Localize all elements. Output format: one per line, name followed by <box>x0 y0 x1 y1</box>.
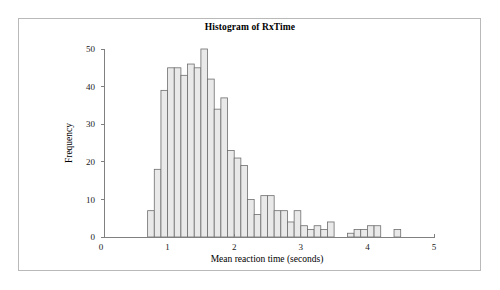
histogram-bar <box>208 79 215 237</box>
histogram-bar <box>301 226 308 237</box>
x-tick-label: 5 <box>432 242 437 252</box>
histogram-bar <box>168 68 175 237</box>
histogram-bar <box>234 158 241 237</box>
y-tick-label: 0 <box>91 232 96 242</box>
histogram-bar <box>281 211 288 237</box>
histogram-bar <box>154 169 161 237</box>
histogram-bar <box>394 229 401 237</box>
histogram-bar <box>194 68 201 237</box>
y-axis-ticks: 01020304050 <box>86 44 105 242</box>
y-tick-label: 40 <box>86 82 96 92</box>
x-tick-label: 1 <box>165 242 170 252</box>
histogram-bar <box>228 151 235 237</box>
histogram-bar <box>261 196 268 237</box>
histogram-bar <box>201 49 208 237</box>
histogram-bar <box>268 196 275 237</box>
histogram-bar <box>354 229 361 237</box>
histogram-bar <box>274 211 281 237</box>
histogram-bar <box>367 226 374 237</box>
y-tick-label: 50 <box>86 44 96 54</box>
plot-area: 01020304050 012345 Mean reaction time (s… <box>0 0 500 290</box>
histogram-bar <box>241 166 248 237</box>
histogram-bar <box>314 226 321 237</box>
histogram-bar <box>321 229 328 237</box>
histogram-bar <box>148 211 155 237</box>
histogram-bar <box>374 226 381 237</box>
x-tick-label: 0 <box>99 242 104 252</box>
y-axis-title: Frequency <box>64 123 74 163</box>
y-tick-label: 10 <box>86 195 96 205</box>
histogram-bar <box>221 98 228 237</box>
histogram-bar <box>214 109 221 237</box>
histogram-bar <box>174 68 181 237</box>
histogram-bar <box>188 64 195 237</box>
histogram-bars <box>148 49 401 237</box>
x-tick-label: 4 <box>365 242 370 252</box>
histogram-bar <box>254 214 261 237</box>
histogram-bar <box>361 229 368 237</box>
histogram-bar <box>181 75 188 237</box>
y-tick-label: 30 <box>86 119 96 129</box>
x-tick-label: 2 <box>232 242 237 252</box>
x-axis-title: Mean reaction time (seconds) <box>211 254 324 265</box>
histogram-bar <box>327 222 334 237</box>
histogram-bar <box>307 229 314 237</box>
x-tick-label: 3 <box>299 242 304 252</box>
histogram-bar <box>248 199 255 237</box>
histogram-bar <box>347 233 354 237</box>
histogram-figure: Histogram of RxTime 01020304050 012345 M… <box>0 0 500 290</box>
y-tick-label: 20 <box>86 157 96 167</box>
histogram-bar <box>294 211 301 237</box>
histogram-bar <box>287 222 294 237</box>
histogram-bar <box>161 90 168 237</box>
